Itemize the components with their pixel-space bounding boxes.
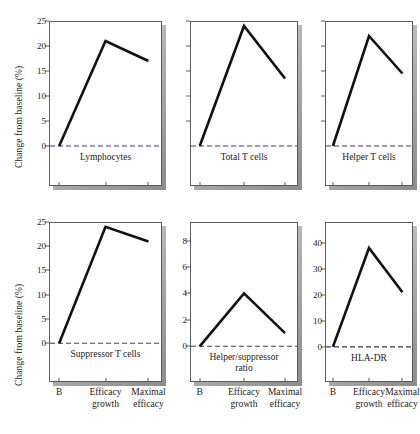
y-tick-label: 10 — [37, 290, 46, 299]
y-tick-label: 0 — [42, 142, 47, 151]
x-axis-labels: BEfficacy growthMaximal efficacy — [176, 387, 312, 413]
data-series-line — [200, 26, 285, 146]
y-tick-label: 30 — [313, 264, 322, 273]
y-tick-label: 20 — [37, 242, 46, 251]
y-tick-label: 6 — [183, 262, 188, 271]
y-tick-label: 5 — [42, 117, 47, 126]
panel-title: Helper/suppressor ratio — [190, 352, 298, 374]
chart-panel-4: 0510152025Suppressor T cellsBEfficacy gr… — [49, 222, 162, 382]
x-axis-labels: BEfficacy growthMaximal efficacy — [311, 387, 420, 413]
panel-title: Lymphocytes — [49, 152, 162, 163]
y-tick-label: 25 — [37, 218, 46, 227]
y-tick-label: 0 — [318, 342, 323, 351]
y-axis-title-top: Change from baseline (%) — [14, 66, 24, 168]
x-axis-labels: BEfficacy growthMaximal efficacy — [35, 387, 176, 413]
y-tick-label: 5 — [42, 314, 47, 323]
chart-panel-5: 02468Helper/suppressor ratioBEfficacy gr… — [190, 222, 298, 382]
y-tick-label: 8 — [183, 236, 188, 245]
data-series-line — [59, 41, 148, 146]
panel-title: Helper T cells — [325, 152, 413, 163]
panel-title: Total T cells — [190, 152, 298, 163]
y-tick-label: 25 — [37, 17, 46, 26]
chart-panel-1: 0510152025Lymphocytes — [49, 21, 162, 186]
x-axis-label: Maximal efficacy — [131, 387, 165, 410]
data-series-line — [59, 227, 148, 343]
x-axis-label: B — [56, 387, 62, 399]
y-tick-label: 20 — [313, 290, 322, 299]
y-tick-label: 0 — [42, 339, 47, 348]
chart-panel-6: 010203040HLA-DRBEfficacy growthMaximal e… — [325, 222, 413, 382]
x-axis-label: B — [330, 387, 336, 399]
chart-panel-3: Helper T cells — [325, 21, 413, 186]
y-axis-title-bottom: Change from baseline (%) — [14, 284, 24, 386]
y-tick-label: 15 — [37, 266, 46, 275]
y-tick-label: 40 — [313, 238, 322, 247]
y-tick-label: 10 — [313, 316, 322, 325]
y-tick-label: 20 — [37, 42, 46, 51]
data-series-line — [333, 36, 403, 146]
data-series-line — [200, 293, 285, 346]
y-tick-label: 0 — [183, 342, 188, 351]
x-axis-label: Maximal efficacy — [385, 387, 419, 410]
chart-panel-2: Total T cells — [190, 21, 298, 186]
figure-panel-grid: Change from baseline (%) Change from bas… — [0, 0, 420, 434]
x-axis-label: B — [197, 387, 203, 399]
y-tick-label: 2 — [183, 315, 188, 324]
y-tick-label: 4 — [183, 289, 188, 298]
x-axis-label: Efficacy growth — [353, 387, 385, 410]
panel-title: Suppressor T cells — [49, 349, 162, 360]
y-tick-label: 15 — [37, 67, 46, 76]
x-axis-label: Efficacy growth — [228, 387, 260, 410]
data-series-line — [333, 248, 403, 347]
panel-title: HLA-DR — [325, 353, 413, 364]
y-tick-label: 10 — [37, 92, 46, 101]
x-axis-label: Efficacy growth — [90, 387, 122, 410]
x-axis-label: Maximal efficacy — [268, 387, 302, 410]
